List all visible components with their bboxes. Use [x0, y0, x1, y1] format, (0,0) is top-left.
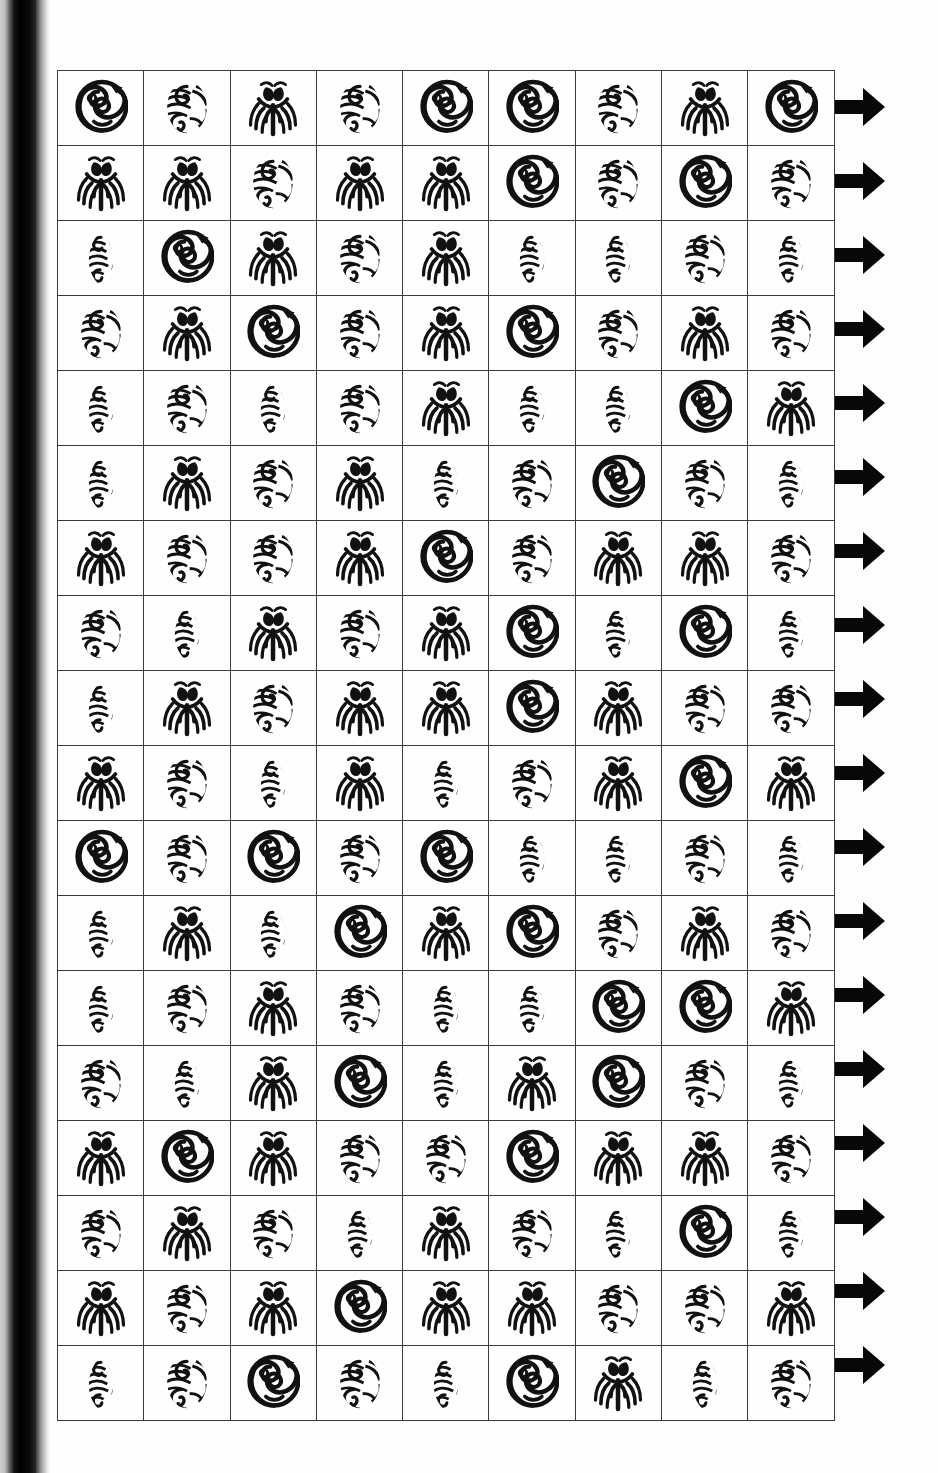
motif-cell-two-eye-fern-face[interactable] [403, 1271, 489, 1346]
motif-cell-swirl-oval[interactable] [316, 821, 402, 896]
motif-cell-spiral-koru-bird-circle[interactable] [230, 1346, 316, 1421]
motif-cell-pointed-leaf-spiral[interactable] [58, 896, 144, 971]
motif-cell-swirl-oval[interactable] [144, 746, 230, 821]
motif-cell-swirl-oval[interactable] [748, 896, 834, 971]
motif-cell-two-eye-fern-face[interactable] [575, 746, 661, 821]
motif-cell-spiral-koru-bird-circle[interactable] [489, 146, 575, 221]
motif-cell-pointed-leaf-spiral[interactable] [575, 596, 661, 671]
motif-cell-swirl-oval[interactable] [230, 671, 316, 746]
motif-cell-swirl-oval[interactable] [489, 1196, 575, 1271]
motif-cell-pointed-leaf-spiral[interactable] [403, 746, 489, 821]
motif-cell-swirl-oval[interactable] [316, 71, 402, 146]
motif-cell-pointed-leaf-spiral[interactable] [489, 971, 575, 1046]
motif-cell-pointed-leaf-spiral[interactable] [403, 971, 489, 1046]
motif-cell-two-eye-fern-face[interactable] [230, 1046, 316, 1121]
motif-cell-two-eye-fern-face[interactable] [230, 596, 316, 671]
motif-cell-pointed-leaf-spiral[interactable] [489, 221, 575, 296]
motif-cell-swirl-oval[interactable] [316, 221, 402, 296]
motif-cell-pointed-leaf-spiral[interactable] [58, 971, 144, 1046]
motif-cell-spiral-koru-bird-circle[interactable] [662, 1196, 748, 1271]
motif-cell-swirl-oval[interactable] [748, 1121, 834, 1196]
motif-cell-spiral-koru-bird-circle[interactable] [230, 821, 316, 896]
motif-cell-swirl-oval[interactable] [662, 221, 748, 296]
motif-cell-swirl-oval[interactable] [748, 1346, 834, 1421]
motif-cell-spiral-koru-bird-circle[interactable] [316, 896, 402, 971]
motif-cell-spiral-koru-bird-circle[interactable] [489, 596, 575, 671]
motif-cell-spiral-koru-bird-circle[interactable] [662, 746, 748, 821]
motif-cell-swirl-oval[interactable] [575, 1271, 661, 1346]
motif-cell-two-eye-fern-face[interactable] [403, 371, 489, 446]
motif-cell-two-eye-fern-face[interactable] [662, 1121, 748, 1196]
motif-cell-pointed-leaf-spiral[interactable] [748, 221, 834, 296]
motif-cell-swirl-oval[interactable] [748, 671, 834, 746]
motif-cell-pointed-leaf-spiral[interactable] [748, 596, 834, 671]
motif-cell-spiral-koru-bird-circle[interactable] [316, 1271, 402, 1346]
motif-cell-two-eye-fern-face[interactable] [403, 296, 489, 371]
motif-cell-spiral-koru-bird-circle[interactable] [489, 671, 575, 746]
motif-cell-swirl-oval[interactable] [316, 296, 402, 371]
motif-cell-pointed-leaf-spiral[interactable] [58, 671, 144, 746]
motif-cell-two-eye-fern-face[interactable] [403, 596, 489, 671]
motif-cell-spiral-koru-bird-circle[interactable] [58, 71, 144, 146]
motif-cell-swirl-oval[interactable] [662, 446, 748, 521]
motif-cell-two-eye-fern-face[interactable] [230, 971, 316, 1046]
motif-cell-two-eye-fern-face[interactable] [230, 1271, 316, 1346]
motif-cell-spiral-koru-bird-circle[interactable] [144, 221, 230, 296]
motif-cell-two-eye-fern-face[interactable] [58, 521, 144, 596]
motif-cell-two-eye-fern-face[interactable] [230, 1121, 316, 1196]
motif-cell-swirl-oval[interactable] [316, 371, 402, 446]
motif-cell-swirl-oval[interactable] [144, 371, 230, 446]
motif-cell-swirl-oval[interactable] [489, 521, 575, 596]
motif-cell-pointed-leaf-spiral[interactable] [748, 446, 834, 521]
motif-cell-pointed-leaf-spiral[interactable] [575, 221, 661, 296]
motif-cell-swirl-oval[interactable] [58, 1046, 144, 1121]
motif-cell-swirl-oval[interactable] [489, 446, 575, 521]
motif-cell-two-eye-fern-face[interactable] [316, 746, 402, 821]
motif-cell-spiral-koru-bird-circle[interactable] [403, 71, 489, 146]
motif-cell-pointed-leaf-spiral[interactable] [403, 446, 489, 521]
motif-cell-spiral-koru-bird-circle[interactable] [489, 71, 575, 146]
motif-cell-two-eye-fern-face[interactable] [403, 146, 489, 221]
motif-cell-swirl-oval[interactable] [230, 146, 316, 221]
motif-cell-swirl-oval[interactable] [144, 521, 230, 596]
motif-cell-pointed-leaf-spiral[interactable] [144, 596, 230, 671]
motif-cell-two-eye-fern-face[interactable] [58, 1121, 144, 1196]
motif-cell-swirl-oval[interactable] [575, 896, 661, 971]
motif-cell-two-eye-fern-face[interactable] [575, 521, 661, 596]
motif-cell-pointed-leaf-spiral[interactable] [489, 821, 575, 896]
motif-cell-two-eye-fern-face[interactable] [316, 446, 402, 521]
motif-cell-two-eye-fern-face[interactable] [144, 1196, 230, 1271]
motif-cell-pointed-leaf-spiral[interactable] [575, 371, 661, 446]
motif-cell-swirl-oval[interactable] [144, 1271, 230, 1346]
motif-cell-pointed-leaf-spiral[interactable] [662, 1346, 748, 1421]
motif-cell-two-eye-fern-face[interactable] [662, 896, 748, 971]
motif-cell-two-eye-fern-face[interactable] [316, 146, 402, 221]
motif-cell-swirl-oval[interactable] [403, 1121, 489, 1196]
motif-cell-two-eye-fern-face[interactable] [58, 146, 144, 221]
motif-cell-swirl-oval[interactable] [748, 296, 834, 371]
motif-cell-pointed-leaf-spiral[interactable] [58, 1346, 144, 1421]
motif-cell-swirl-oval[interactable] [575, 71, 661, 146]
motif-cell-pointed-leaf-spiral[interactable] [748, 821, 834, 896]
motif-cell-two-eye-fern-face[interactable] [58, 746, 144, 821]
motif-cell-swirl-oval[interactable] [144, 821, 230, 896]
motif-cell-spiral-koru-bird-circle[interactable] [489, 1121, 575, 1196]
motif-cell-pointed-leaf-spiral[interactable] [230, 371, 316, 446]
motif-cell-swirl-oval[interactable] [316, 1121, 402, 1196]
motif-cell-swirl-oval[interactable] [748, 521, 834, 596]
motif-cell-two-eye-fern-face[interactable] [748, 746, 834, 821]
motif-cell-swirl-oval[interactable] [748, 146, 834, 221]
motif-cell-spiral-koru-bird-circle[interactable] [489, 296, 575, 371]
motif-cell-two-eye-fern-face[interactable] [662, 521, 748, 596]
motif-cell-pointed-leaf-spiral[interactable] [230, 746, 316, 821]
motif-cell-spiral-koru-bird-circle[interactable] [316, 1046, 402, 1121]
motif-cell-swirl-oval[interactable] [662, 1046, 748, 1121]
motif-cell-pointed-leaf-spiral[interactable] [748, 1196, 834, 1271]
motif-cell-swirl-oval[interactable] [575, 146, 661, 221]
motif-cell-spiral-koru-bird-circle[interactable] [575, 1046, 661, 1121]
motif-cell-spiral-koru-bird-circle[interactable] [575, 971, 661, 1046]
motif-cell-swirl-oval[interactable] [230, 446, 316, 521]
motif-cell-two-eye-fern-face[interactable] [575, 1121, 661, 1196]
motif-cell-pointed-leaf-spiral[interactable] [748, 1046, 834, 1121]
motif-cell-swirl-oval[interactable] [58, 596, 144, 671]
